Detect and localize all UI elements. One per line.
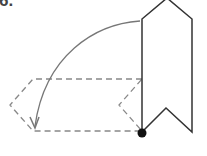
upright-banner-outline (142, 0, 192, 132)
rotation-diagram (0, 0, 207, 156)
dashed-banner-outline (10, 79, 142, 131)
pivot-point-icon (138, 129, 147, 138)
arrowhead-icon (30, 117, 39, 128)
